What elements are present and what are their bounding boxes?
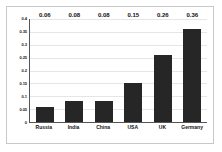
x-axis-tick-label: India: [59, 125, 89, 130]
y-axis-tick-label: 0.4: [22, 17, 27, 21]
x-axis-tick-label: Germany: [177, 125, 207, 130]
bar-value-label: 0.08: [98, 12, 110, 18]
bar-value-label: 0.26: [157, 12, 169, 18]
x-axis-tick-label: Russia: [29, 125, 59, 130]
x-axis: RussiaIndiaChinaUSAUKGermany: [29, 125, 207, 135]
bar-group: 0.36: [178, 19, 207, 122]
bar[interactable]: 0.36: [183, 29, 201, 122]
y-axis-tick-label: 0.35: [19, 30, 27, 34]
y-axis: 00.050.10.150.20.250.30.350.4: [13, 19, 27, 123]
bar-group: 0.26: [148, 19, 177, 122]
y-axis-tick-label: 0.2: [22, 69, 27, 73]
chart-frame: 00.050.10.150.20.250.30.350.4 0.060.080.…: [6, 6, 214, 144]
x-axis-tick-label: USA: [118, 125, 148, 130]
bars-layer: 0.060.080.080.150.260.36: [30, 19, 207, 122]
bar[interactable]: 0.15: [124, 83, 142, 122]
bar-value-label: 0.08: [68, 12, 80, 18]
bar[interactable]: 0.08: [95, 101, 113, 122]
y-axis-tick-label: 0: [25, 121, 27, 125]
bar-group: 0.08: [60, 19, 89, 122]
bar[interactable]: 0.26: [154, 55, 172, 122]
y-axis-tick-label: 0.1: [22, 95, 27, 99]
bar-group: 0.08: [89, 19, 118, 122]
x-axis-tick-label: UK: [148, 125, 178, 130]
bar-group: 0.06: [30, 19, 59, 122]
bar[interactable]: 0.06: [36, 107, 54, 122]
bar-chart: 00.050.10.150.20.250.30.350.4 0.060.080.…: [7, 7, 213, 143]
plot-area: 0.060.080.080.150.260.36: [29, 19, 207, 123]
bar-value-label: 0.06: [39, 12, 51, 18]
y-axis-tick-label: 0.15: [19, 82, 27, 86]
y-axis-tick-label: 0.05: [19, 108, 27, 112]
bar-group: 0.15: [119, 19, 148, 122]
bar[interactable]: 0.08: [65, 101, 83, 122]
y-axis-tick-label: 0.3: [22, 43, 27, 47]
bar-value-label: 0.36: [186, 12, 198, 18]
x-axis-tick-label: China: [88, 125, 118, 130]
y-axis-tick-label: 0.25: [19, 56, 27, 60]
bar-value-label: 0.15: [127, 12, 139, 18]
